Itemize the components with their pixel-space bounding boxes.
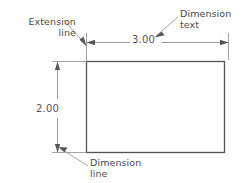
annotation-extension-line: Extension line (6, 16, 76, 38)
annotation-dimension-text: Dimension text (180, 8, 240, 30)
dimension-value-horizontal: 3.00 (132, 34, 155, 45)
leader-line-dimension-text (156, 17, 178, 36)
annotation-dimension-line: Dimension line (90, 157, 160, 179)
arrowhead-bottom-vertical (55, 144, 60, 153)
arrowhead-top-vertical (55, 62, 60, 71)
annotation-dimension-line-text2: line (90, 168, 160, 179)
arrowhead-left-horizontal (87, 40, 96, 45)
annotation-dimension-text-text2: text (180, 19, 240, 30)
arrowhead-right-horizontal (220, 40, 229, 45)
leader-arrowhead-extension-line (80, 36, 87, 46)
rectangle-shape (87, 62, 225, 153)
annotation-extension-line-text2: line (6, 27, 76, 38)
annotation-dimension-line-text1: Dimension (90, 157, 160, 168)
drawing-canvas: Extension line Dimension text Dimension … (0, 0, 243, 183)
annotation-extension-line-text1: Extension (6, 16, 76, 27)
dimension-value-vertical: 2.00 (36, 103, 59, 114)
annotation-dimension-text-text1: Dimension (180, 8, 240, 19)
